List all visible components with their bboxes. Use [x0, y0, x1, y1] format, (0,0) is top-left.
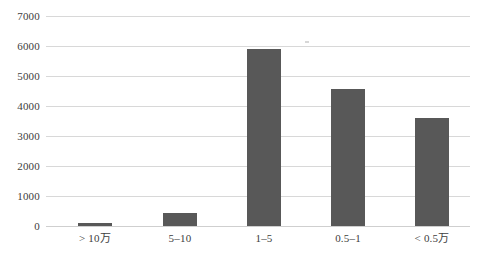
x-axis-tick-label: < 0.5万	[415, 232, 450, 245]
y-axis-tick-label: 3000	[0, 131, 40, 142]
bar-series	[46, 16, 470, 226]
y-axis-tick-labels: 7000 6000 5000 4000 3000 2000 1000 0	[0, 16, 40, 226]
y-axis-tick-label: 2000	[0, 161, 40, 172]
x-axis-tick-label: > 10万	[79, 232, 111, 245]
x-axis-tick-label: 5–10	[169, 232, 192, 245]
bar-item	[78, 223, 112, 226]
y-axis-tick-label: 5000	[0, 71, 40, 82]
bar-item	[331, 89, 365, 226]
bar-item	[163, 213, 197, 226]
x-axis-tick-labels: > 10万 5–10 1–5 0.5–1 < 0.5万	[46, 232, 470, 252]
y-axis-tick-label: 7000	[0, 11, 40, 22]
y-axis-tick-label: 0	[0, 221, 40, 232]
y-axis-tick-label: 1000	[0, 191, 40, 202]
scan-artifact-speck	[305, 41, 309, 43]
axis-baseline	[46, 226, 470, 227]
y-axis-tick-label: 4000	[0, 101, 40, 112]
bar-chart: 7000 6000 5000 4000 3000 2000 1000 0 > 1…	[0, 0, 485, 268]
bar-item	[415, 118, 449, 226]
bar-item	[247, 49, 281, 226]
y-axis-tick-label: 6000	[0, 41, 40, 52]
x-axis-tick-label: 0.5–1	[335, 232, 361, 245]
x-axis-tick-label: 1–5	[255, 232, 272, 245]
